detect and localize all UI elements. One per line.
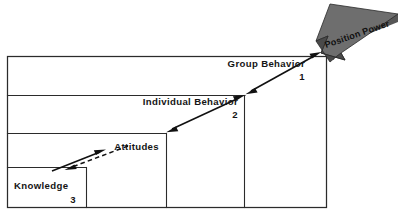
label-knowledge-text: Knowledge — [14, 180, 68, 191]
label-attitudes: Attitudes — [114, 141, 159, 152]
label-group-behavior: Group Behavior 1 — [228, 58, 306, 82]
figure-canvas: Group Behavior 1 Individual Behavior 2 A… — [0, 0, 402, 219]
label-knowledge: Knowledge 3 — [14, 180, 76, 205]
staircase-diagram: Group Behavior 1 Individual Behavior 2 A… — [0, 0, 402, 219]
label-group-behavior-text: Group Behavior — [228, 58, 305, 69]
label-knowledge-number: 3 — [70, 194, 76, 205]
label-individual-behavior-text: Individual Behavior — [143, 96, 238, 107]
label-group-behavior-number: 1 — [299, 71, 305, 82]
position-power-banner: Position Power — [316, 4, 398, 62]
label-individual-behavior: Individual Behavior 2 — [143, 96, 238, 120]
label-attitudes-text: Attitudes — [114, 141, 159, 152]
label-individual-behavior-number: 2 — [232, 109, 238, 120]
